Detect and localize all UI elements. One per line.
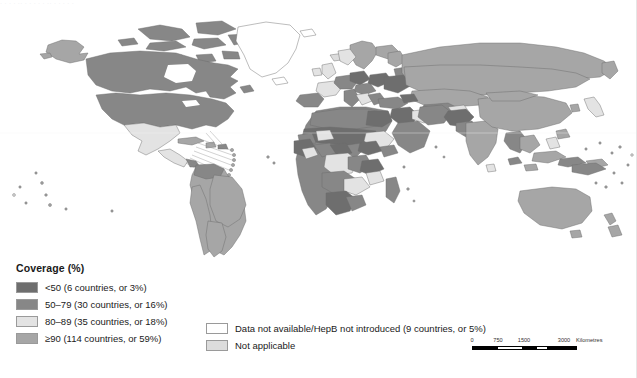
swatch-no-data: [206, 323, 228, 334]
scale-tick-750: 750: [493, 337, 502, 343]
legend-label-not-applicable: Not applicable: [235, 340, 295, 351]
clipped-header-text: · · · · ·· · · · · · ·· · · · · ·: [0, 0, 637, 7]
legend-label-ge90: ≥90 (114 countries, or 59%): [45, 333, 161, 344]
legend-item-ge90[interactable]: ≥90 (114 countries, or 59%): [16, 331, 206, 346]
legend-label-80-89: 80–89 (35 countries, or 18%): [45, 316, 168, 327]
legend-title: Coverage (%): [16, 262, 486, 274]
legend-item-no-data[interactable]: Data not available/HepB not introduced (…: [206, 321, 506, 336]
legend-item-not-applicable[interactable]: Not applicable: [206, 338, 506, 353]
scale-seg-3: [522, 347, 536, 349]
scale-tick-0: 0: [470, 337, 473, 343]
scale-unit-label: Kilometres: [576, 337, 602, 343]
legend-item-lt50[interactable]: <50 (6 countries, or 3%): [16, 280, 206, 295]
legend-item-50-79[interactable]: 50–79 (30 countries, or 16%): [16, 297, 206, 312]
scale-tick-3000: 3000: [558, 337, 570, 343]
swatch-not-applicable: [206, 340, 228, 351]
scale-seg-5: [547, 347, 576, 349]
legend-label-50-79: 50–79 (30 countries, or 16%): [45, 299, 168, 310]
legend-label-lt50: <50 (6 countries, or 3%): [45, 282, 147, 293]
legend-column-other: Data not available/HepB not introduced (…: [206, 321, 506, 355]
legend-item-80-89[interactable]: 80–89 (35 countries, or 18%): [16, 314, 206, 329]
scale-tick-labels: 0 750 1500 3000 Kilometres: [472, 337, 592, 346]
swatch-80-89: [16, 316, 38, 327]
scale-bar-graphic: [472, 346, 577, 350]
scale-tick-1500: 1500: [518, 337, 530, 343]
swatch-ge90: [16, 333, 38, 344]
legend-label-no-data: Data not available/HepB not introduced (…: [235, 323, 486, 334]
swatch-lt50: [16, 282, 38, 293]
map-legend: Coverage (%) <50 (6 countries, or 3%) 50…: [16, 262, 486, 350]
scale-seg-4: [537, 347, 547, 349]
legend-column-coverage: <50 (6 countries, or 3%) 50–79 (30 count…: [16, 280, 206, 348]
scale-seg-1: [473, 347, 498, 349]
scale-seg-2: [498, 347, 523, 349]
map-scale-bar: 0 750 1500 3000 Kilometres: [472, 337, 592, 350]
world-choropleth-map: .c { stroke:#6b6b6b; stroke-width:.45; s…: [0, 7, 637, 260]
swatch-50-79: [16, 299, 38, 310]
world-map-container: .c { stroke:#6b6b6b; stroke-width:.45; s…: [0, 7, 637, 260]
map-page: · · · · ·· · · · · · ·· · · · · · .c { s…: [0, 0, 637, 378]
